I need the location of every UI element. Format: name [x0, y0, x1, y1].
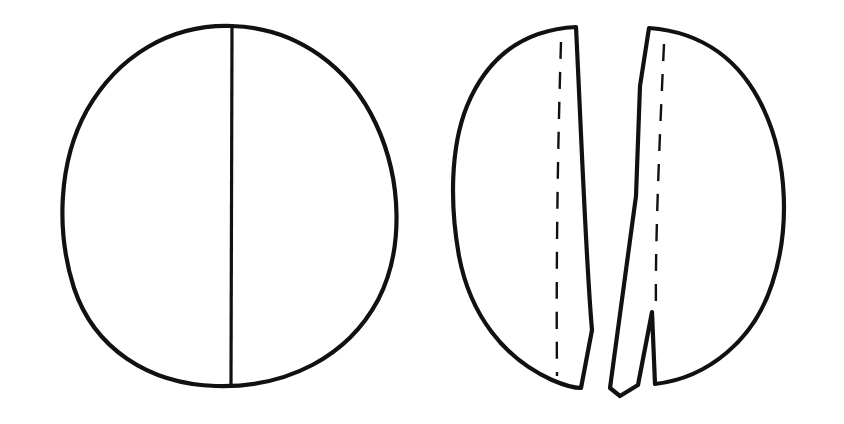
seed-diagram-svg: [0, 0, 844, 424]
panel-left-intact-seed: [62, 26, 396, 386]
figure-canvas: [0, 0, 844, 424]
median-line-icon: [231, 27, 232, 385]
seed-outline-icon: [62, 26, 396, 386]
